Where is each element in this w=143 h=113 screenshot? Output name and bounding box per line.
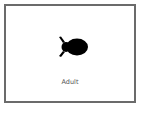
life-stage-card: Adult xyxy=(4,4,136,103)
card-label: Adult xyxy=(6,78,134,86)
animal-silhouette-icon xyxy=(57,36,89,58)
